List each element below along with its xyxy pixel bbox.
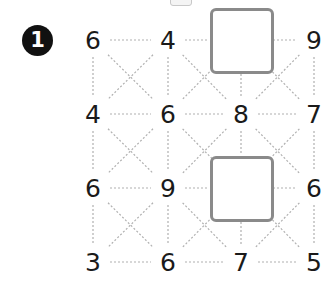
number-node-r1-c0: 4	[78, 99, 108, 129]
puzzle-number: 1	[30, 30, 45, 51]
number-node-r0-c0: 6	[78, 25, 108, 55]
number-node-r1-c2: 8	[226, 99, 256, 129]
number-node-r1-c1: 6	[153, 99, 183, 129]
number-node-r2-c0: 6	[78, 173, 108, 203]
number-node-r3-c0: 3	[78, 247, 108, 277]
puzzle-stage: 1 64946876963675	[0, 0, 335, 295]
answer-box-r0-c2[interactable]	[210, 8, 274, 74]
number-node-r0-c1: 4	[153, 25, 183, 55]
number-node-r2-c3: 6	[299, 173, 329, 203]
puzzle-number-badge: 1	[22, 25, 53, 56]
number-node-r3-c3: 5	[299, 247, 329, 277]
answer-box-r2-c2[interactable]	[210, 156, 274, 222]
number-node-r2-c1: 9	[153, 173, 183, 203]
number-node-r3-c2: 7	[226, 247, 256, 277]
number-node-r1-c3: 7	[299, 99, 329, 129]
number-node-r3-c1: 6	[153, 247, 183, 277]
number-node-r0-c3: 9	[299, 25, 329, 55]
